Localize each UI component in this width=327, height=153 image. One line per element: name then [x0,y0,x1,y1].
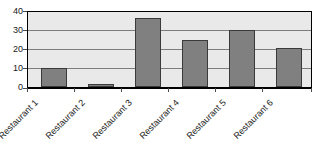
plot-area [27,11,312,88]
y-axis-tick-label-10: 10 [13,64,23,73]
y-axis-tick-label-30: 30 [13,26,23,35]
y-axis-tick-label-20: 20 [13,45,23,54]
x-axis-tick-label-restaurant-5: Restaurant 5 [185,97,229,141]
bar-restaurant-5 [229,30,255,87]
bars-layer [28,12,311,87]
x-axis-tick-labels: Restaurant 1 Restaurant 2 Restaurant 3 R… [0,88,327,153]
bar-chart: 40 30 20 10 0 Restaurant 1 [0,0,327,153]
bar-restaurant-1 [41,68,67,87]
x-axis-tick-label-restaurant-1: Restaurant 1 [0,97,40,141]
x-axis-tick-label-restaurant-3: Restaurant 3 [91,97,135,141]
x-axis-tick-label-restaurant-4: Restaurant 4 [138,97,182,141]
bar-restaurant-4 [182,40,208,87]
x-axis-tick-label-restaurant-6: Restaurant 6 [232,97,276,141]
bar-restaurant-6 [276,48,302,88]
bar-restaurant-2 [88,84,114,87]
bar-restaurant-3 [135,18,161,87]
y-axis-tick-label-40: 40 [13,7,23,16]
x-axis-tick-label-restaurant-2: Restaurant 2 [44,97,88,141]
